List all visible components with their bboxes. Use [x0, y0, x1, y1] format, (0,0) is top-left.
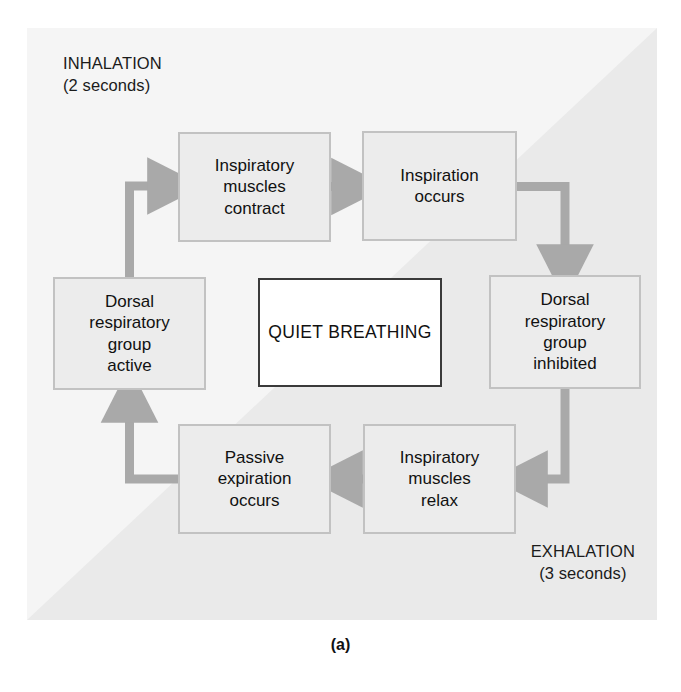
arrow-drg-active-to-insp-contract: [130, 186, 168, 277]
box-line: Dorsal: [525, 289, 605, 310]
box-inspiratory-muscles-contract: Inspiratory muscles contract: [178, 132, 331, 242]
center-line-1: QUIET: [268, 322, 323, 342]
inhalation-duration: (2 seconds): [63, 74, 162, 96]
figure-caption: (a): [0, 636, 681, 654]
center-line-2: BREATHING: [328, 322, 432, 342]
box-line: Inspiratory: [215, 155, 294, 176]
exhalation-name: EXHALATION: [531, 542, 635, 560]
box-line: contract: [215, 198, 294, 219]
box-line: relax: [400, 490, 479, 511]
quiet-breathing-cycle-figure: INHALATION (2 seconds) EXHALATION (3 sec…: [0, 0, 681, 692]
box-inspiration-occurs: Inspiration occurs: [362, 131, 517, 241]
box-passive-expiration-occurs: Passive expiration occurs: [178, 424, 331, 534]
box-line: respiratory: [525, 311, 605, 332]
inhalation-phase-label: INHALATION (2 seconds): [63, 52, 162, 96]
center-box-quiet-breathing: QUIET BREATHING: [258, 278, 442, 387]
box-line: occurs: [400, 186, 478, 207]
box-inspiratory-muscles-relax: Inspiratory muscles relax: [363, 424, 516, 534]
box-line: Dorsal: [89, 291, 169, 312]
diagram-panel: INHALATION (2 seconds) EXHALATION (3 sec…: [27, 28, 657, 620]
box-line: respiratory: [89, 312, 169, 333]
exhalation-phase-label: EXHALATION (3 seconds): [531, 540, 635, 584]
box-line: expiration: [218, 468, 292, 489]
box-line: group: [525, 332, 605, 353]
box-line: active: [89, 355, 169, 376]
inhalation-name: INHALATION: [63, 54, 162, 72]
box-line: Inspiration: [400, 165, 478, 186]
box-line: Inspiratory: [400, 447, 479, 468]
arrow-passive-exp-to-drg-active: [130, 403, 179, 479]
box-line: group: [89, 334, 169, 355]
box-line: muscles: [215, 176, 294, 197]
exhalation-duration: (3 seconds): [531, 562, 635, 584]
box-line: occurs: [218, 490, 292, 511]
box-line: muscles: [400, 468, 479, 489]
box-dorsal-respiratory-group-inhibited: Dorsal respiratory group inhibited: [489, 275, 641, 389]
box-dorsal-respiratory-group-active: Dorsal respiratory group active: [53, 277, 206, 390]
box-line: inhibited: [525, 353, 605, 374]
box-line: Passive: [218, 447, 292, 468]
